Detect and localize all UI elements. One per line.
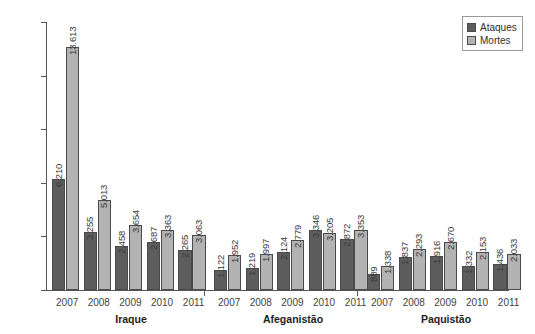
bar-afeganistão-2010-mortes [323,233,336,290]
x-axis-tick-mark [354,291,355,294]
bar-value-label: 2.687 [148,227,159,250]
x-axis-tick-mark [97,291,98,294]
x-axis-year-label: 2009 [429,297,461,308]
legend-item-ataques: Ataques [467,21,517,33]
bar-value-label: 889 [368,267,379,283]
x-axis-tick-mark [412,291,413,294]
x-axis-tick-mark [66,291,67,294]
bar-value-label: 13.613 [67,26,78,54]
x-axis-year-label: 2007 [366,297,398,308]
bar-value-label: 5.013 [98,185,109,208]
x-axis-year-label: 2008 [245,297,277,308]
x-axis-year-label: 2011 [178,297,210,308]
bar-value-label: 2.779 [292,225,303,248]
bar-value-label: 6.210 [53,164,64,187]
y-axis-tick-mark [41,129,46,130]
x-axis-year-label: 2010 [461,297,493,308]
x-axis-tick-mark [192,291,193,294]
y-axis-tick-mark [41,290,46,291]
x-axis-tick-mark [129,291,130,294]
x-axis-year-label: 2007 [51,297,83,308]
bar-value-label: 2.265 [179,234,190,257]
x-axis-group-separator [357,291,358,296]
bar-afeganistão-2011-mortes [354,230,367,290]
bar-value-label: 2.153 [477,236,488,259]
x-axis-year-label: 2011 [493,297,525,308]
bar-value-label: 2.670 [445,227,456,250]
bar-value-label: 3.063 [193,220,204,243]
x-axis-year-label: 2007 [213,297,245,308]
bar-value-label: 1.122 [215,255,226,278]
bar-value-label: 2.872 [341,223,352,246]
bar-value-label: 2.033 [508,238,519,261]
bar-value-label: 1.219 [246,253,257,276]
x-axis-group-separator [204,291,205,296]
bar-chart: 03.0006.0009.00012.00015.000 6.21013.613… [0,0,535,334]
y-axis-tick-mark [41,76,46,77]
x-axis-tick-mark [507,291,508,294]
bar-iraque-2010-mortes [161,230,174,290]
bar-value-label: 1.837 [399,242,410,265]
y-axis-line [46,22,47,291]
bar-iraque-2007-ataques [52,179,65,290]
bar-value-label: 1.997 [260,239,271,262]
bar-value-label: 3.205 [324,217,335,240]
x-axis-year-label: 2008 [83,297,115,308]
bar-value-label: 1.916 [431,240,442,263]
legend-swatch-deaths-icon [467,36,476,45]
bar-iraque-2011-mortes [192,235,205,290]
bar-value-label: 2.458 [116,231,127,254]
bar-iraque-2009-mortes [129,225,142,290]
x-axis-tick-mark [228,291,229,294]
bar-iraque-2008-mortes [98,200,111,290]
chart-legend: Ataques Mortes [462,16,523,51]
y-axis-tick-mark [41,236,46,237]
x-axis-year-label: 2009 [276,297,308,308]
bar-value-label: 2.124 [278,237,289,260]
x-axis-group-label: Paquistão [347,313,535,325]
legend-item-mortes: Mortes [467,34,517,46]
bar-afeganistão-2010-ataques [309,230,322,290]
x-axis-tick-mark [323,291,324,294]
legend-label-attacks: Ataques [480,22,517,33]
bar-iraque-2008-ataques [84,232,97,290]
bar-value-label: 1.332 [463,251,474,274]
x-axis-year-label: 2008 [398,297,430,308]
bar-value-label: 2.293 [413,234,424,257]
x-axis-year-label: 2009 [114,297,146,308]
y-axis-tick-mark [41,183,46,184]
x-axis-line [46,290,509,291]
bar-iraque-2007-mortes [66,47,79,290]
y-axis-tick-mark [41,22,46,23]
bar-value-label: 3.353 [355,215,366,238]
bar-value-label: 1.952 [229,240,240,263]
x-axis-year-label: 2010 [308,297,340,308]
x-axis-tick-mark [291,291,292,294]
x-axis-tick-mark [381,291,382,294]
x-axis-tick-mark [161,291,162,294]
legend-label-deaths: Mortes [480,35,511,46]
x-axis-tick-mark [259,291,260,294]
bar-value-label: 3.255 [84,217,95,240]
x-axis-tick-mark [444,291,445,294]
bar-value-label: 3.654 [130,209,141,232]
x-axis-tick-mark [476,291,477,294]
legend-swatch-attacks-icon [467,23,476,32]
bar-value-label: 3.346 [310,215,321,238]
x-axis-year-label: 2010 [146,297,178,308]
bar-value-label: 1.338 [382,251,393,274]
bar-value-label: 1.436 [494,249,505,272]
bar-value-label: 3.363 [162,215,173,238]
